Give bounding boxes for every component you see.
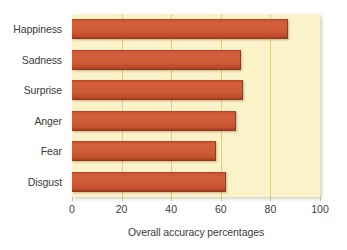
x-axis-tickmark [320,197,321,201]
bar-row [72,136,320,167]
bar-row [72,106,320,137]
plot-area [72,14,320,197]
x-axis-tick-label: 20 [116,203,128,215]
y-axis-label: Surprise [0,75,68,106]
x-axis-tick-label: 80 [265,203,277,215]
x-axis-tick-label: 0 [69,203,75,215]
y-axis-label: Happiness [0,14,68,45]
bar-row [72,75,320,106]
x-axis-tickmark [171,197,172,201]
x-axis-tick-label: 100 [311,203,329,215]
y-axis-label: Disgust [0,167,68,198]
bar [72,172,226,192]
y-axis-category-labels: Happiness Sadness Surprise Anger Fear Di… [0,14,68,197]
bar [72,19,288,39]
bar-chart: Happiness Sadness Surprise Anger Fear Di… [0,0,347,250]
x-axis-tick-labels: 020406080100 [72,203,320,219]
bar-row [72,45,320,76]
bar-row [72,14,320,45]
bar-row [72,167,320,198]
bar [72,80,243,100]
x-axis-tickmark [122,197,123,201]
y-axis-label: Fear [0,136,68,167]
x-axis-tickmark [72,197,73,201]
bar [72,50,241,70]
bar-series [72,14,320,197]
bar [72,141,216,161]
x-axis-title: Overall accuracy percentages [72,226,320,238]
x-axis-tickmark [270,197,271,201]
bar [72,111,236,131]
x-axis-tick-label: 40 [165,203,177,215]
y-axis-label: Sadness [0,45,68,76]
x-axis-tickmark [221,197,222,201]
x-axis-tick-label: 60 [215,203,227,215]
y-axis-label: Anger [0,106,68,137]
